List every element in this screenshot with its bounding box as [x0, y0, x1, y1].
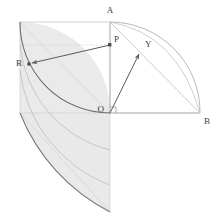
geometry-figure: A B O P R Y: [0, 0, 217, 222]
label-Y: Y: [145, 39, 152, 49]
label-B: B: [204, 116, 210, 126]
label-R: R: [16, 58, 22, 68]
dot-P: [108, 43, 111, 46]
label-P: P: [114, 34, 119, 44]
label-A: A: [107, 5, 114, 15]
label-O: O: [98, 104, 105, 114]
dot-R: [27, 62, 30, 65]
